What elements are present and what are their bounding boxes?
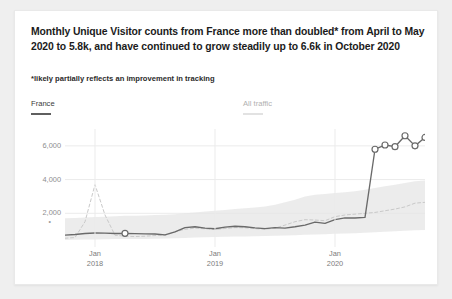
legend-swatch-all-traffic (243, 113, 263, 115)
chart-plot-area: 2,0004,0006,000• Jan2018Jan2019Jan2020 (31, 129, 425, 269)
chart-legend: France All traffic (31, 99, 425, 125)
x-axis-tick: Jan2019 (192, 249, 238, 268)
legend-item-all-traffic[interactable]: All traffic (243, 99, 272, 109)
legend-label-france: France (31, 99, 55, 109)
page-title: Monthly Unique Visitor counts from Franc… (31, 24, 425, 54)
footnote-text: *likely partially reflects an improvemen… (31, 74, 425, 84)
line-chart-svg (65, 129, 425, 247)
chart-canvas (65, 129, 425, 247)
y-axis: 2,0004,0006,000• (31, 129, 65, 247)
y-axis-tick: 2,000 (43, 209, 62, 217)
all-traffic-band (65, 180, 425, 240)
legend-swatch-france (31, 113, 51, 115)
y-axis-tick: 4,000 (43, 176, 62, 184)
y-axis-tick: 6,000 (43, 142, 62, 150)
x-axis-tick: Jan2020 (312, 249, 358, 268)
legend-item-france[interactable]: France (31, 99, 55, 109)
y-axis-marker-dot: • (49, 219, 51, 225)
x-axis: Jan2018Jan2019Jan2020 (65, 249, 425, 271)
chart-card: Monthly Unique Visitor counts from Franc… (14, 10, 438, 285)
x-axis-tick: Jan2018 (72, 249, 118, 268)
legend-label-all-traffic: All traffic (243, 99, 272, 109)
